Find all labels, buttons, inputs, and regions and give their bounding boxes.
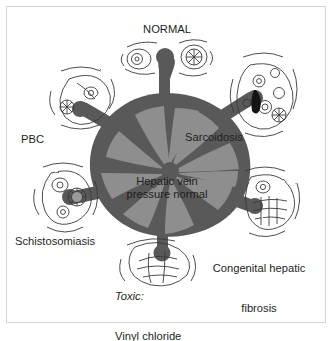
label-hepatic-vein-pressure: Hepatic vein pressure normal [105, 175, 229, 201]
spoke-toxic-bulb [154, 245, 171, 262]
figure-frame: NORMAL PBC Sarcoidosis Schistosomiasis C… [6, 6, 326, 323]
lesion-sarcoidosis-sketch [230, 53, 297, 137]
spoke-pbc-bulb [72, 101, 88, 117]
label-normal: NORMAL [7, 23, 327, 36]
label-schistosomiasis: Schistosomiasis [15, 235, 155, 248]
label-toxic-heading: Toxic: [115, 290, 245, 303]
label-pbc: PBC [21, 133, 101, 146]
label-toxic-group: Toxic: Vinyl chloride Copper Arsenic [115, 264, 245, 341]
schistosomiasis-ovum [72, 192, 83, 203]
spoke-normal-bulb [156, 48, 174, 66]
label-hepatic-vein-line1: Hepatic vein [105, 175, 229, 188]
label-hepatic-vein-line2: pressure normal [105, 188, 229, 201]
label-toxic-item-0: Vinyl chloride [115, 330, 245, 341]
label-sarcoidosis: Sarcoidosis [185, 131, 327, 144]
